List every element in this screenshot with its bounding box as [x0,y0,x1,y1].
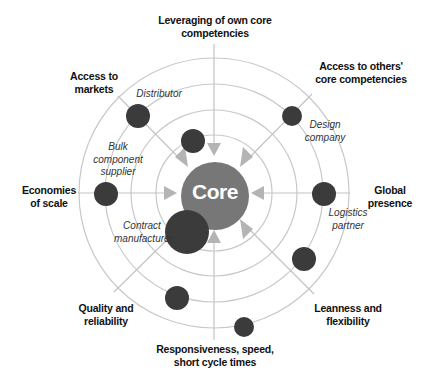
dot-logistics-partner [312,182,336,206]
benefit-bottom-right-line1: Leanness and [298,302,398,315]
benefit-top-line1: Leveraging of own core [130,14,300,27]
benefit-top-line2: competencies [130,27,300,40]
partner-bulk-supplier-line1: Bulk [82,141,154,154]
benefit-top-right-line2: core competencies [300,73,422,86]
benefit-bottom-right: Leanness and flexibility [298,302,398,328]
arrow-left-icon [164,186,177,200]
benefit-bottom-line2: short cycle times [150,356,280,369]
benefit-top-right-line1: Access to others' [300,60,422,73]
dot-design-company [282,106,302,126]
partner-design-company-line1: Design [300,119,350,132]
benefit-left-line1: Economies [14,184,84,197]
partner-contract-manufacturer-line2: manufacturer [114,233,170,246]
dot-bottom [234,317,254,337]
partner-bulk-supplier-line2: component [82,154,154,167]
benefit-bottom: Responsiveness, speed, short cycle times [150,343,280,369]
dot-quality [165,286,189,310]
benefit-bottom-left-line2: reliability [66,315,146,328]
benefit-bottom-line1: Responsiveness, speed, [150,343,280,356]
benefit-bottom-left: Quality and reliability [66,302,146,328]
benefit-top-left-line2: markets [62,83,126,96]
dot-inner-top [181,129,205,153]
benefit-left: Economies of scale [14,184,84,210]
arrow-top-right-icon [240,147,253,167]
partner-bulk-supplier: Bulk component supplier [82,141,154,179]
arrow-bottom-right-icon [240,219,253,239]
partner-bulk-supplier-line3: supplier [82,166,154,179]
partner-design-company-line2: company [300,132,350,145]
partner-contract-manufacturer-line1: Contract [114,220,170,233]
dot-bulk-supplier [94,182,118,206]
dot-contract-manufacturer [165,210,209,254]
partner-design-company: Design company [300,119,350,144]
benefit-bottom-right-line2: flexibility [298,315,398,328]
benefit-right-line1: Global [358,184,422,197]
arrow-bottom-icon [207,230,221,243]
benefit-top: Leveraging of own core competencies [130,14,300,40]
partner-contract-manufacturer: Contract manufacturer [114,220,170,245]
benefit-top-right: Access to others' core competencies [300,60,422,86]
partner-distributor: Distributor [124,88,194,101]
benefit-top-left-line1: Access to [62,70,126,83]
partner-network-diagram: Core Leveraging of own core competencies… [0,0,423,382]
partner-logistics-partner-line2: partner [322,220,374,233]
partner-logistics-partner-line1: Logistics [322,207,374,220]
dot-leanness [292,247,316,271]
partner-distributor-line1: Distributor [124,88,194,101]
benefit-left-line2: of scale [14,197,84,210]
dot-distributor [126,104,150,128]
benefit-top-left: Access to markets [62,70,126,96]
arrow-top-icon [207,143,221,156]
benefit-bottom-left-line1: Quality and [66,302,146,315]
core-label: Core [181,180,249,204]
partner-logistics-partner: Logistics partner [322,207,374,232]
arrow-right-icon [251,186,264,200]
